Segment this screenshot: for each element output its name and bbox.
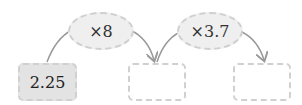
- operator-label-1: ×8: [89, 22, 113, 41]
- start-value-box: 2.25: [18, 63, 77, 101]
- answer-box-2[interactable]: [233, 63, 291, 101]
- operator-label-2: ×3.7: [191, 22, 230, 41]
- arrow-4-icon: [242, 32, 264, 60]
- arrow-3-icon: [157, 32, 180, 62]
- operator-oval-2: ×3.7: [177, 12, 243, 50]
- arrow-2-icon: [130, 30, 154, 60]
- answer-box-1[interactable]: [128, 63, 186, 101]
- operator-oval-1: ×8: [68, 12, 134, 50]
- start-value: 2.25: [30, 73, 66, 92]
